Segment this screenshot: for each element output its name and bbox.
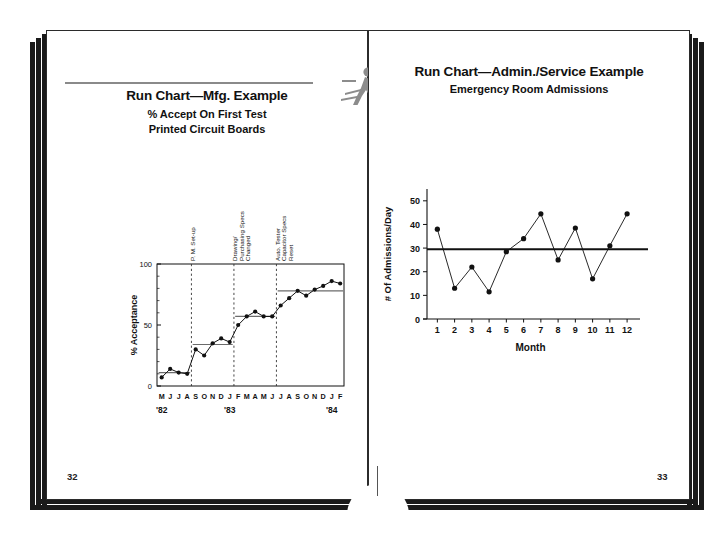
- mfg-ytick-label: 100: [139, 260, 152, 269]
- book-spine-bulge: [347, 484, 409, 545]
- mfg-data-point: [304, 294, 308, 298]
- mfg-xtick-label: O: [303, 392, 309, 401]
- mfg-xtick-label: S: [193, 392, 198, 401]
- mfg-data-point: [262, 314, 266, 318]
- mfg-annotation-2: Drawing/Purchasing SpecsChanged: [231, 211, 251, 261]
- mfg-data-point: [338, 281, 342, 285]
- mfg-xtick-label: M: [159, 392, 165, 401]
- mfg-year-label: '82: [156, 405, 168, 414]
- er-xtick-label: 8: [556, 325, 561, 335]
- er-data-point: [435, 227, 440, 232]
- mfg-data-point: [296, 289, 300, 293]
- er-run-chart-svg: 01020304050# Of Admissions/Day1234567891…: [369, 171, 689, 391]
- mfg-xtick-label: N: [312, 392, 317, 401]
- mfg-data-point: [202, 353, 206, 357]
- mfg-data-point: [219, 336, 223, 340]
- mfg-xtick-label: F: [338, 392, 343, 401]
- right-page-title: Run Chart—Admin./Service Example: [369, 64, 689, 79]
- mfg-xtick-label: J: [168, 392, 172, 401]
- mfg-data-point: [177, 370, 181, 374]
- mfg-data-line: [162, 281, 341, 377]
- mfg-run-chart: 050100% AcceptanceMJJASONDJFMAMJJASONDJF…: [47, 159, 367, 414]
- mfg-xtick-label: J: [330, 392, 334, 401]
- er-data-point: [521, 236, 526, 241]
- mfg-xtick-label: F: [236, 392, 241, 401]
- mfg-data-point: [253, 309, 257, 313]
- er-xtick-label: 1: [435, 325, 440, 335]
- er-data-point: [487, 289, 492, 294]
- mfg-annotation-1: P. M. Set-up: [189, 227, 196, 261]
- page-edge-left-1: [30, 42, 35, 510]
- er-xtick-label: 3: [469, 325, 474, 335]
- er-data-point: [625, 211, 630, 216]
- er-xtick-label: 5: [504, 325, 509, 335]
- er-data-point: [607, 243, 612, 248]
- mfg-xtick-label: D: [219, 392, 224, 401]
- mfg-data-point: [287, 296, 291, 300]
- mfg-data-point: [185, 372, 189, 376]
- right-page-number: 33: [657, 471, 668, 482]
- er-xtick-label: 7: [538, 325, 543, 335]
- mfg-data-point: [160, 375, 164, 379]
- mfg-annotation-line-text: Reset: [287, 245, 294, 261]
- mfg-xtick-label: N: [210, 392, 215, 401]
- er-data-point: [452, 286, 457, 291]
- mfg-data-point: [245, 314, 249, 318]
- mfg-data-point: [270, 314, 274, 318]
- mfg-data-point: [236, 323, 240, 327]
- mfg-xtick-label: S: [295, 392, 300, 401]
- mfg-data-point: [321, 284, 325, 288]
- er-y-axis-label: # Of Admissions/Day: [382, 206, 393, 301]
- left-page-number: 32: [67, 471, 78, 482]
- er-data-line: [437, 214, 627, 292]
- er-xtick-label: 4: [487, 325, 492, 335]
- mfg-xtick-label: J: [279, 392, 283, 401]
- mfg-data-point: [279, 303, 283, 307]
- mfg-annotation-line-text: P. M. Set-up: [189, 227, 196, 261]
- er-ytick-label: 30: [410, 244, 420, 254]
- page-edge-left-2: [36, 38, 41, 508]
- right-page-subtitle-1: Emergency Room Admissions: [369, 83, 689, 95]
- er-x-axis-label: Month: [516, 342, 546, 353]
- mfg-xtick-label: D: [321, 392, 326, 401]
- mfg-annotation-3: Auto. TesterCapacitor SpecsReset: [274, 216, 294, 261]
- left-page-subtitle-1: % Accept On First Test: [47, 108, 367, 120]
- book-spine-line: [377, 466, 378, 496]
- mfg-data-point: [211, 341, 215, 345]
- er-ytick-label: 50: [410, 196, 420, 206]
- mfg-annotation-line-text: Changed: [244, 235, 251, 261]
- mfg-data-point: [313, 288, 317, 292]
- left-page: Run Chart—Mfg. Example % Accept On First…: [46, 30, 368, 500]
- er-data-point: [573, 225, 578, 230]
- mfg-data-point: [194, 347, 198, 351]
- mfg-xtick-label: O: [201, 392, 207, 401]
- mfg-y-axis-label: % Acceptance: [129, 295, 139, 356]
- left-page-title: Run Chart—Mfg. Example: [47, 88, 367, 103]
- er-xtick-label: 2: [452, 325, 457, 335]
- book-spread: Run Chart—Mfg. Example % Accept On First…: [0, 0, 724, 545]
- er-xtick-label: 9: [573, 325, 578, 335]
- er-xtick-label: 11: [605, 325, 615, 335]
- er-ytick-label: 40: [410, 220, 420, 230]
- mfg-data-point: [168, 367, 172, 371]
- mfg-xtick-label: A: [185, 392, 190, 401]
- er-data-point: [469, 264, 474, 269]
- mfg-year-label: '84: [326, 405, 338, 414]
- er-data-point: [590, 276, 595, 281]
- mfg-ytick-label: 50: [144, 321, 152, 330]
- right-page: Run Chart—Admin./Service Example Emergen…: [368, 30, 690, 500]
- er-xtick-label: 10: [588, 325, 598, 335]
- er-ytick-label: 20: [410, 267, 420, 277]
- er-data-point: [538, 211, 543, 216]
- page-edge-left-bottom-1: [30, 505, 380, 510]
- mfg-data-point: [228, 340, 232, 344]
- mfg-run-chart-svg: 050100% AcceptanceMJJASONDJFMAMJJASONDJF…: [47, 159, 367, 414]
- mfg-plot-frame: [157, 264, 344, 386]
- er-xtick-label: 6: [521, 325, 526, 335]
- er-xtick-label: 12: [622, 325, 632, 335]
- mfg-data-point: [330, 279, 334, 283]
- left-page-subtitle-2: Printed Circuit Boards: [47, 123, 367, 135]
- er-ytick-label: 0: [415, 315, 420, 325]
- mfg-xtick-label: J: [177, 392, 181, 401]
- page-edge-right-1: [699, 42, 704, 510]
